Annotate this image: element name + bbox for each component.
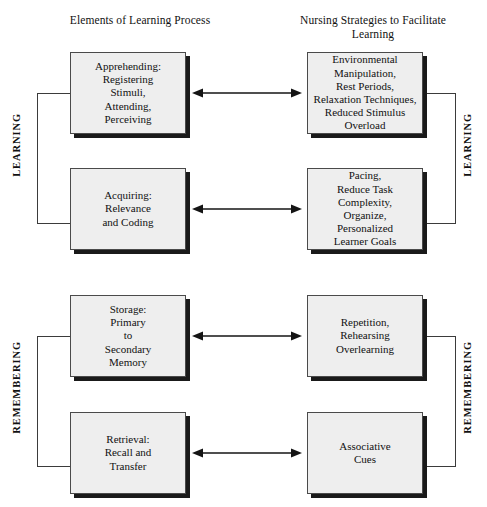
double-arrow-icon-row1 [192,86,302,100]
node-associative-cues-label: Associative Cues [335,440,394,466]
side-label-remembering-left: REMEMBERING [11,341,22,434]
node-pacing-label: Pacing, Reduce Task Complexity, Organize… [330,169,401,248]
node-retrieval: Retrieval: Recall and Transfer [70,412,186,494]
bracket-learning-right [420,93,456,224]
node-apprehending-label: Apprehending: Registering Stimuli, Atten… [91,60,165,126]
double-arrow-icon-row2 [192,202,302,216]
node-storage: Storage: Primary to Secondary Memory [70,295,186,377]
bracket-learning-left [37,93,73,224]
node-repetition: Repetition, Rehearsing Overlearning [307,295,423,377]
learning-process-diagram: Elements of Learning Process Nursing Str… [0,0,487,507]
node-repetition-label: Repetition, Rehearsing Overlearning [332,316,398,356]
node-environmental-manipulation-label: Environmental Manipulation, Rest Periods… [310,53,421,132]
node-apprehending: Apprehending: Registering Stimuli, Atten… [70,52,186,134]
double-arrow-icon-row3 [192,329,302,343]
side-label-learning-left: LEARNING [11,113,22,177]
bracket-remembering-right [420,336,456,467]
node-acquiring: Acquiring: Relevance and Coding [70,168,186,250]
node-environmental-manipulation: Environmental Manipulation, Rest Periods… [307,52,423,134]
side-label-remembering-right: REMEMBERING [462,341,473,434]
bracket-remembering-left [37,336,73,467]
node-pacing: Pacing, Reduce Task Complexity, Organize… [307,168,423,250]
column-header-right: Nursing Strategies to Facilitate Learnin… [292,14,454,41]
node-associative-cues: Associative Cues [307,412,423,494]
double-arrow-icon-row4 [192,446,302,460]
side-label-learning-right: LEARNING [462,113,473,177]
column-header-left: Elements of Learning Process [62,14,218,28]
node-storage-label: Storage: Primary to Secondary Memory [101,303,155,369]
node-retrieval-label: Retrieval: Recall and Transfer [101,433,156,473]
node-acquiring-label: Acquiring: Relevance and Coding [98,189,157,229]
